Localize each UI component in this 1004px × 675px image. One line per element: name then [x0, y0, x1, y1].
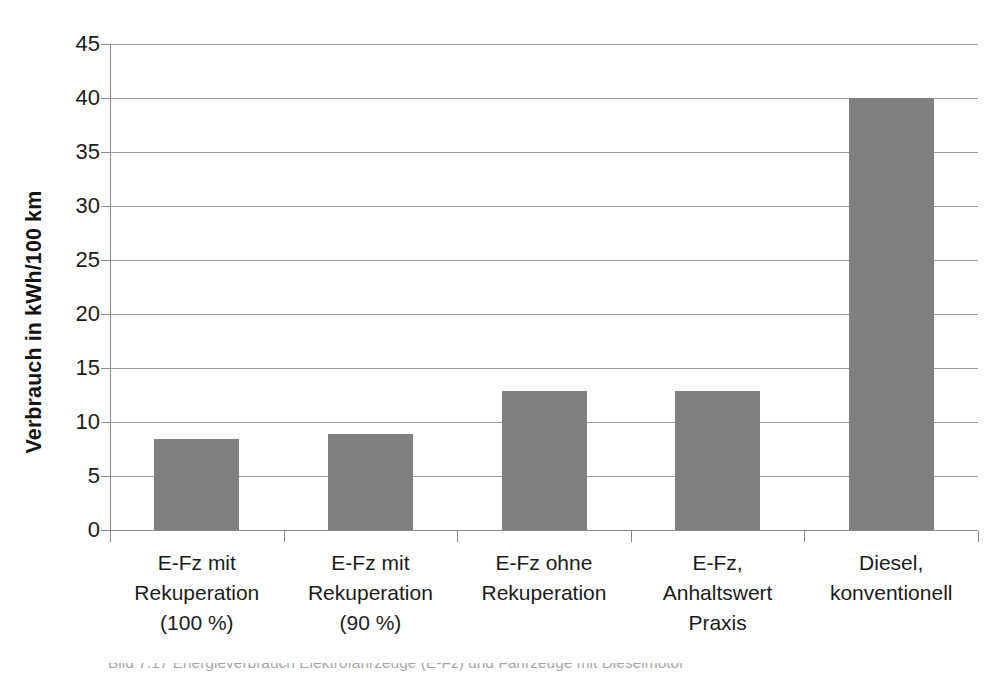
y-tick-45 — [101, 44, 110, 45]
bar-series — [110, 44, 978, 530]
bar-chart-figure: Verbrauch in kWh/100 km 0510152025303540… — [0, 0, 1004, 675]
bar — [328, 434, 413, 530]
x-axis-label: E-Fz,AnhaltswertPraxis — [631, 548, 805, 638]
x-axis-label-line: Anhaltswert — [631, 578, 805, 608]
x-tick — [804, 531, 805, 542]
x-tick — [631, 531, 632, 542]
bar — [502, 391, 587, 530]
x-axis-line — [110, 530, 978, 531]
x-axis-label: E-Fz mitRekuperation(100 %) — [110, 548, 284, 638]
x-tick — [978, 531, 979, 542]
x-axis-label: Diesel,konventionell — [804, 548, 978, 608]
y-tick-label: 15 — [0, 357, 100, 379]
y-tick-15 — [101, 368, 110, 369]
y-tick-label: 5 — [0, 465, 100, 487]
y-tick-5 — [101, 476, 110, 477]
x-tick — [110, 531, 111, 542]
y-tick-10 — [101, 422, 110, 423]
x-axis-label-line: (90 %) — [284, 608, 458, 638]
y-tick-label: 45 — [0, 33, 100, 55]
y-tick-label: 30 — [0, 195, 100, 217]
y-tick-label: 0 — [0, 519, 100, 541]
plot-area — [110, 44, 978, 530]
y-tick-20 — [101, 314, 110, 315]
x-axis-labels: E-Fz mitRekuperation(100 %)E-Fz mitRekup… — [110, 548, 978, 648]
y-tick-25 — [101, 260, 110, 261]
x-tick — [284, 531, 285, 542]
x-axis-label-line: E-Fz mit — [110, 548, 284, 578]
y-tick-0 — [101, 530, 110, 531]
x-axis-label-line: (100 %) — [110, 608, 284, 638]
y-tick-label: 20 — [0, 303, 100, 325]
x-axis-label-line: Diesel, — [804, 548, 978, 578]
x-tick — [457, 531, 458, 542]
x-axis-label-line: E-Fz, — [631, 548, 805, 578]
bar — [849, 98, 934, 530]
x-axis-label-line: E-Fz mit — [284, 548, 458, 578]
x-axis-label-line: E-Fz ohne — [457, 548, 631, 578]
y-tick-30 — [101, 206, 110, 207]
y-tick-label: 10 — [0, 411, 100, 433]
y-tick-label: 40 — [0, 87, 100, 109]
x-axis-label: E-Fz ohneRekuperation — [457, 548, 631, 608]
bar — [154, 439, 239, 530]
x-axis-label-line: Rekuperation — [457, 578, 631, 608]
y-tick-40 — [101, 98, 110, 99]
x-axis-label-line: Rekuperation — [110, 578, 284, 608]
x-axis-label: E-Fz mitRekuperation(90 %) — [284, 548, 458, 638]
figure-caption-text: Bild 7.17 Energieverbrauch Elektrofahrze… — [108, 663, 684, 672]
x-axis-label-line: Rekuperation — [284, 578, 458, 608]
y-tick-35 — [101, 152, 110, 153]
x-axis-label-line: Praxis — [631, 608, 805, 638]
x-axis-label-line: konventionell — [804, 578, 978, 608]
y-tick-label: 35 — [0, 141, 100, 163]
y-tick-label: 25 — [0, 249, 100, 271]
bar — [675, 391, 760, 530]
figure-caption-clipped: Bild 7.17 Energieverbrauch Elektrofahrze… — [108, 663, 808, 675]
